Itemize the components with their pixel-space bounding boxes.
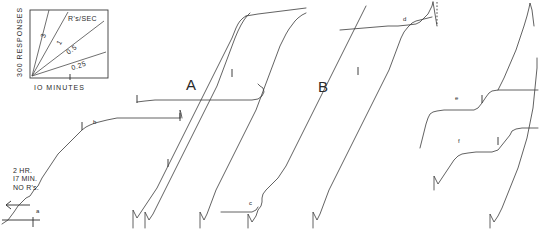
record-trace — [248, 6, 366, 228]
record-trace — [137, 84, 264, 102]
record-canvas — [0, 0, 539, 230]
event-label-b: b — [93, 119, 97, 125]
section-label-a: A — [186, 76, 197, 93]
section-label-b: B — [318, 78, 329, 95]
record-trace — [200, 13, 306, 228]
event-ticks — [82, 67, 498, 167]
pause-note: 2 HR. I7 MIN. NO R's. — [13, 167, 39, 192]
record-trace — [313, 17, 432, 228]
legend-y-axis-label: 300 RESPONSES — [16, 7, 23, 77]
record-trace — [420, 90, 538, 148]
event-label-f: f — [458, 138, 460, 144]
rate-line-3 — [32, 10, 49, 76]
baseline-axis — [2, 217, 40, 227]
record-trace — [434, 128, 538, 190]
legend-title: R's/SEC — [68, 15, 97, 22]
record-trace — [145, 13, 250, 228]
record-trace — [246, 8, 306, 16]
record-trace — [340, 2, 433, 30]
legend-x-axis-label: IO MINUTES — [34, 84, 85, 91]
event-label-e: e — [455, 95, 459, 101]
cumulative-record-figure: 300 RESPONSES IO MINUTES R's/SEC 3 1 0.5… — [0, 0, 539, 230]
record-trace — [433, 2, 437, 26]
pause-arrow — [6, 201, 30, 209]
record-trace — [221, 207, 258, 212]
event-label-d: d — [403, 16, 407, 22]
record-trace — [133, 16, 246, 228]
event-label-c: c — [249, 200, 252, 206]
record-trace — [498, 3, 534, 90]
record-traces — [2, 2, 538, 228]
event-label-a: a — [36, 208, 40, 214]
record-trace — [490, 58, 537, 228]
